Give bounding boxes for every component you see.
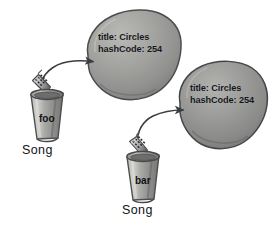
object-reference-diagram: title: Circles hashCode: 254 title: Circ…: [0, 0, 280, 228]
object-field-hashcode: hashCode: 254: [190, 94, 254, 106]
song-object-left-fields: title: Circles hashCode: 254: [98, 31, 162, 55]
object-field-title: title: Circles: [98, 31, 162, 43]
object-field-hashcode: hashCode: 254: [98, 43, 162, 55]
reference-type-label-bar: Song: [122, 203, 153, 217]
reference-variable-foo: foo: [39, 113, 55, 124]
song-object-right-fields: title: Circles hashCode: 254: [190, 82, 254, 106]
reference-type-label-foo: Song: [22, 143, 53, 157]
arrow-reference-bar: [137, 110, 183, 145]
object-field-title: title: Circles: [190, 82, 254, 94]
arrow-reference-foo: [41, 61, 93, 83]
reference-foo: [31, 70, 63, 141]
reference-bar: [127, 132, 159, 203]
reference-variable-bar: bar: [135, 175, 151, 186]
